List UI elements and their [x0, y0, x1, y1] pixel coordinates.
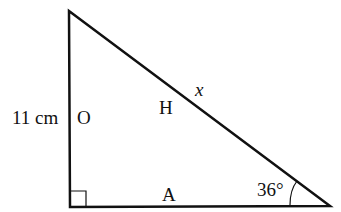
unknown-x-label: x	[195, 80, 203, 99]
adjacent-label: A	[162, 185, 176, 204]
triangle-diagram: 11 cm O H x A 36°	[0, 0, 341, 212]
opposite-label: O	[77, 108, 91, 127]
angle-arc	[290, 181, 297, 205]
right-triangle	[69, 11, 330, 207]
right-angle-marker	[71, 191, 86, 206]
side-length-label: 11 cm	[12, 108, 58, 127]
hypotenuse-label: H	[159, 98, 173, 117]
angle-label: 36°	[257, 180, 284, 199]
